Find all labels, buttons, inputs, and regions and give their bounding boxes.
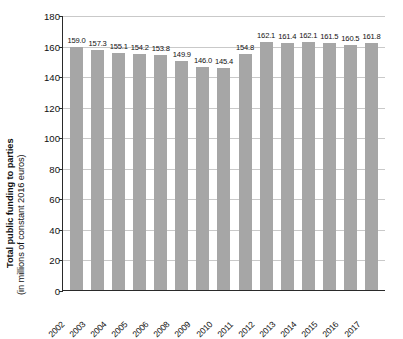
bar-value-label: 146.0 (194, 56, 212, 65)
bar-series: 159.0157.3155.1154.2153.8149.9146.0145.4… (63, 16, 385, 290)
bar[interactable] (323, 43, 336, 290)
y-axis-tick-label: 0 (55, 286, 60, 297)
bar[interactable] (217, 68, 230, 290)
x-axis-tick-slot: 2006 (150, 292, 171, 326)
bar-value-label: 162.1 (257, 31, 275, 40)
y-axis-tick-label: 160 (44, 41, 60, 52)
bar[interactable] (344, 45, 357, 290)
x-axis-tick-slot: 2015 (319, 292, 340, 326)
bar[interactable] (91, 50, 104, 290)
y-axis-tick-label: 100 (44, 133, 60, 144)
bar[interactable] (154, 55, 167, 290)
x-axis-tick-labels: 2002200320042005200620082009201020112012… (62, 292, 385, 326)
y-axis-title: Total public funding to parties (in mill… (0, 0, 40, 300)
y-axis-tick-label: 180 (44, 11, 60, 22)
bar[interactable] (70, 47, 83, 290)
bar[interactable] (133, 54, 146, 290)
y-axis-tick-label: 140 (44, 72, 60, 83)
bar-slot: 155.1 (108, 16, 129, 290)
bar-value-label: 154.8 (236, 43, 254, 52)
x-axis-tick-slot: 2014 (298, 292, 319, 326)
y-axis-tick-label: 60 (49, 194, 60, 205)
x-axis-tick-slot: 2004 (107, 292, 128, 326)
bar-slot: 157.3 (87, 16, 108, 290)
bar-slot: 153.8 (150, 16, 171, 290)
bar-value-label: 154.2 (131, 43, 149, 52)
bar-value-label: 161.8 (362, 32, 380, 41)
bar-slot: 161.5 (319, 16, 340, 290)
plot-area: 159.0157.3155.1154.2153.8149.9146.0145.4… (62, 16, 385, 291)
x-axis-tick-slot: 2017 (361, 292, 382, 326)
y-axis-tick-labels: 020406080100120140160180 (36, 0, 60, 326)
x-axis-tick-slot: 2010 (213, 292, 234, 326)
bar[interactable] (239, 54, 252, 291)
x-axis-tick-slot: 2012 (255, 292, 276, 326)
bar-slot: 146.0 (192, 16, 213, 290)
bar-slot: 162.1 (298, 16, 319, 290)
bar[interactable] (260, 42, 273, 290)
bar-value-label: 159.0 (68, 36, 86, 45)
bar-slot: 159.0 (66, 16, 87, 290)
y-axis-tick-label: 80 (49, 163, 60, 174)
bar-slot: 149.9 (171, 16, 192, 290)
y-axis-tick-label: 120 (44, 102, 60, 113)
bar[interactable] (302, 42, 315, 290)
bar-slot: 162.1 (256, 16, 277, 290)
bar-slot: 154.2 (129, 16, 150, 290)
y-axis-tick-label: 20 (49, 255, 60, 266)
bar-slot: 154.8 (235, 16, 256, 290)
bar-value-label: 145.4 (215, 57, 233, 66)
bar-slot: 160.5 (340, 16, 361, 290)
bar-value-label: 149.9 (173, 50, 191, 59)
bar-value-label: 160.5 (341, 34, 359, 43)
x-axis-tick-slot: 2003 (86, 292, 107, 326)
bar[interactable] (365, 43, 378, 290)
x-axis-tick-slot: 2013 (276, 292, 297, 326)
bar-value-label: 162.1 (299, 31, 317, 40)
bar[interactable] (196, 67, 209, 290)
y-axis-title-main: Total public funding to parties (5, 139, 15, 268)
bar-value-label: 161.5 (320, 32, 338, 41)
bar-value-label: 161.4 (278, 32, 296, 41)
x-axis-tick-slot: 2011 (234, 292, 255, 326)
x-axis-tick-slot: 2008 (171, 292, 192, 326)
bar[interactable] (112, 53, 125, 290)
y-axis-tick-label: 40 (49, 224, 60, 235)
x-axis-tick-slot: 2002 (65, 292, 86, 326)
bar-value-label: 153.8 (152, 44, 170, 53)
y-axis-title-units: (in millions of constant 2016 euros) (16, 154, 26, 295)
bar-value-label: 157.3 (89, 39, 107, 48)
x-axis-tick-slot: 2005 (128, 292, 149, 326)
bar[interactable] (175, 61, 188, 290)
bar-slot: 145.4 (213, 16, 234, 290)
bar[interactable] (281, 43, 294, 290)
bar-slot: 161.4 (277, 16, 298, 290)
bar-slot: 161.8 (361, 16, 382, 290)
bar-value-label: 155.1 (110, 42, 128, 51)
